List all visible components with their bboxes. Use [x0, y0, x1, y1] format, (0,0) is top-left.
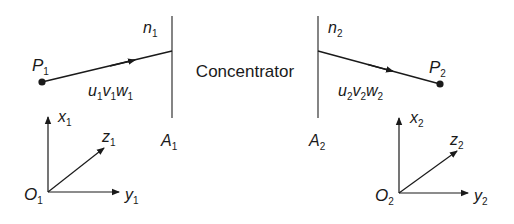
label-z2: z2	[449, 131, 464, 151]
label-u2v2w2: u2v2w2	[338, 82, 384, 102]
label-o1: O1	[24, 185, 43, 206]
concentrator-label: Concentrator	[196, 62, 295, 81]
ray-left-arrow-icon	[110, 60, 135, 66]
label-a2: A2	[308, 132, 326, 152]
label-x2: x2	[409, 109, 424, 129]
label-x1: x1	[57, 108, 72, 128]
label-y1: y1	[124, 186, 139, 206]
point-p2	[436, 80, 443, 87]
label-a1: A1	[160, 132, 178, 152]
label-u1v1w1: u1v1w1	[88, 82, 134, 102]
concentrator-diagram: Concentrator n1 P1 u1v1w1 A1 x1 z1 O1 y1…	[0, 0, 514, 224]
ray-left	[42, 51, 172, 82]
z2-axis-arrow-icon	[399, 151, 457, 193]
z1-axis-arrow-icon	[48, 148, 104, 192]
ray-right-arrow-icon	[368, 65, 393, 72]
label-p2: P2	[429, 58, 446, 79]
axes-right	[399, 118, 468, 193]
label-n2: n2	[328, 19, 343, 39]
label-y2: y2	[473, 187, 488, 207]
label-n1: n1	[143, 19, 158, 39]
label-o2: O2	[375, 186, 394, 207]
label-p1: P1	[32, 56, 49, 77]
point-p1	[38, 78, 45, 85]
label-z1: z1	[101, 128, 116, 148]
